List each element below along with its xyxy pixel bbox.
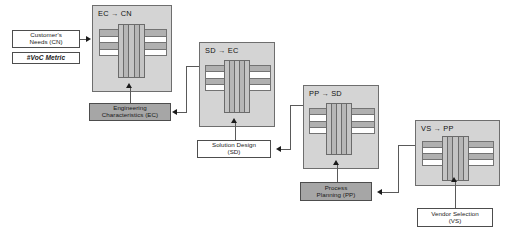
- connector-ec-to-ecn: [130, 88, 131, 103]
- connector-sdec-v: [186, 66, 187, 112]
- connector-vs-to-vspp: [455, 182, 456, 208]
- matrix-sd-ec[interactable]: SD → EC: [199, 42, 275, 127]
- matrix-vs-pp-cols: [442, 136, 469, 181]
- connector-ppsd-v: [290, 105, 291, 149]
- connector-ppsd-h-top: [290, 105, 304, 106]
- matrix-pp-sd-cols: [326, 103, 352, 155]
- matrix-ec-cn-cols: [118, 24, 145, 78]
- matrix-col: [347, 104, 351, 154]
- matrix-pp-sd[interactable]: PP → SD: [303, 85, 379, 169]
- matrix-vs-pp-title: VS → PP: [421, 124, 454, 133]
- engineering-characteristics-label: Engineering Characteristics (EC): [102, 105, 158, 119]
- process-planning-label: Process Planning (PP): [317, 185, 356, 199]
- matrix-pp-sd-title: PP → SD: [309, 89, 342, 98]
- connector-vspp-h-bottom: [382, 192, 399, 193]
- matrix-sd-ec-title: SD → EC: [205, 46, 238, 55]
- arrowhead-vspp-to-pp: [377, 189, 382, 195]
- connector-sd-to-sdec: [235, 123, 236, 140]
- matrix-vs-pp[interactable]: VS → PP: [415, 120, 500, 186]
- matrix-col: [245, 61, 249, 112]
- vendor-selection-label: Vendor Selection (VS): [431, 211, 479, 225]
- voc-metric-label: #VoC Metric: [27, 54, 65, 61]
- matrix-ec-cn-title: EC → CN: [98, 9, 132, 18]
- connector-sdec-h-top: [186, 66, 200, 67]
- voc-metric-box[interactable]: #VoC Metric: [12, 52, 80, 64]
- connector-ppsd-h-bottom: [281, 149, 291, 150]
- vendor-selection-box[interactable]: Vendor Selection (VS): [417, 208, 493, 227]
- solution-design-box[interactable]: Solution Design (SD): [197, 140, 271, 158]
- process-planning-box[interactable]: Process Planning (PP): [300, 182, 372, 201]
- matrix-sd-ec-cols: [224, 60, 250, 113]
- connector-vspp-v: [398, 145, 399, 192]
- arrowhead-cn-to-ecn: [86, 36, 91, 42]
- engineering-characteristics-box[interactable]: Engineering Characteristics (EC): [89, 103, 171, 121]
- matrix-col: [140, 25, 144, 77]
- connector-pp-to-ppsd: [337, 165, 338, 182]
- customer-needs-label: Customer's Needs (CN): [29, 32, 62, 46]
- connector-vspp-h-top: [398, 145, 416, 146]
- solution-design-label: Solution Design (SD): [212, 142, 256, 156]
- qfd-cascade-diagram: Customer's Needs (CN) #VoC Metric EC → C…: [0, 0, 515, 247]
- matrix-col: [464, 137, 468, 180]
- connector-sdec-h-bottom: [177, 112, 187, 113]
- matrix-ec-cn[interactable]: EC → CN: [92, 5, 172, 92]
- arrowhead-sdec-to-ec: [172, 109, 177, 115]
- customer-needs-box[interactable]: Customer's Needs (CN): [12, 30, 80, 48]
- arrowhead-ppsd-to-sd: [276, 146, 281, 152]
